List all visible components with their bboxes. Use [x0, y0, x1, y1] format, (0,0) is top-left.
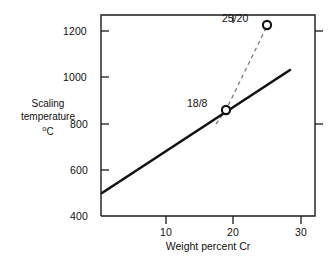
x-tick-label-20: 20 — [227, 226, 239, 238]
data-point-25-20 — [263, 21, 271, 29]
annotation-25-20: 25/20 — [222, 12, 248, 24]
annotation-18-8: 18/8 — [187, 97, 207, 109]
y-axis-right-ticks — [315, 31, 323, 124]
y-tick-label-400: 400 — [70, 210, 88, 222]
unit-celsius: C — [46, 126, 53, 137]
solid-trend-line — [102, 70, 290, 193]
y-axis-title-line1: Scaling — [2, 98, 94, 111]
x-axis-ticks — [166, 216, 301, 224]
y-axis-title: Scaling temperature oC — [2, 98, 94, 139]
data-point-18-8 — [222, 106, 230, 114]
y-tick-label-1000: 1000 — [63, 71, 87, 83]
x-tick-label-10: 10 — [160, 226, 172, 238]
y-axis-title-line2: temperature — [2, 111, 94, 124]
y-tick-label-600: 600 — [70, 164, 88, 176]
y-tick-label-1200: 1200 — [63, 25, 87, 37]
y-axis-title-unit: oC — [2, 123, 94, 139]
y-axis-ticks — [101, 31, 109, 170]
x-axis-title: Weight percent Cr — [101, 240, 315, 252]
x-tick-label-30: 30 — [295, 226, 307, 238]
plot-frame — [101, 15, 315, 216]
chart-figure: 1200 1000 800 600 400 10 20 30 Scaling t… — [0, 0, 331, 265]
